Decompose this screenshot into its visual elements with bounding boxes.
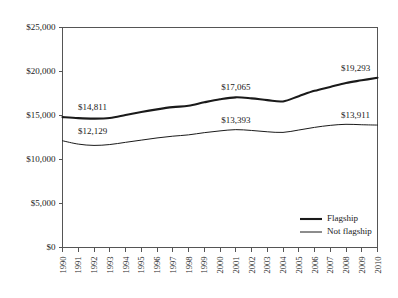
data-point-label: $12,129 [78,126,108,136]
y-axis-tick-label: $0 [47,242,57,252]
x-axis-tick-label: 1997 [168,257,178,274]
x-axis-tick-label: 2009 [357,257,367,274]
x-axis-tick-labels: 1990199119921993199419951996199719981999… [58,256,383,274]
y-axis-tick-label: $5,000 [31,198,56,208]
x-axis-tick-label: 2007 [325,257,335,274]
x-axis-tick-label: 1990 [58,257,68,274]
line-chart-figure: $0$5,000$10,000$15,000$20,000$25,000 199… [0,0,398,298]
x-axis-tick-label: 2004 [278,256,288,274]
data-point-label: $19,293 [341,63,371,73]
x-axis-tick-label: 2003 [262,257,272,274]
x-axis-tick-label: 1999 [199,257,209,274]
x-axis-tick-label: 1998 [184,257,194,274]
x-axis-tick-label: 1991 [73,257,83,274]
x-axis-tick-label: 1992 [89,257,99,274]
x-axis-tick-label: 2006 [310,257,320,274]
legend-label-flagship: Flagship [327,213,359,223]
y-axis-tick-label: $10,000 [26,154,56,164]
x-axis-tick-label: 2000 [215,257,225,274]
y-axis-tick-label: $20,000 [26,66,56,76]
x-axis-tick-label: 1994 [121,256,131,274]
x-axis-tick-label: 2001 [231,257,241,274]
y-axis-tick-label: $25,000 [26,22,56,32]
data-point-label: $14,811 [78,102,107,112]
x-axis-tick-label: 2005 [294,257,304,274]
chart-background [0,0,398,298]
data-point-label: $13,911 [341,110,370,120]
data-point-label: $17,065 [221,82,251,92]
data-point-label: $13,393 [221,115,251,125]
x-axis-tick-label: 1995 [136,257,146,274]
y-axis-tick-label: $15,000 [26,110,56,120]
x-axis-ticks [63,248,378,252]
x-axis-tick-label: 2002 [247,257,257,274]
x-axis-tick-label: 1993 [105,257,115,274]
x-axis-tick-label: 2010 [373,257,383,274]
chart-canvas: $0$5,000$10,000$15,000$20,000$25,000 199… [0,0,398,298]
x-axis-tick-label: 1996 [152,257,162,274]
legend-label-not-flagship: Not flagship [327,226,372,236]
x-axis-tick-label: 2008 [341,257,351,274]
